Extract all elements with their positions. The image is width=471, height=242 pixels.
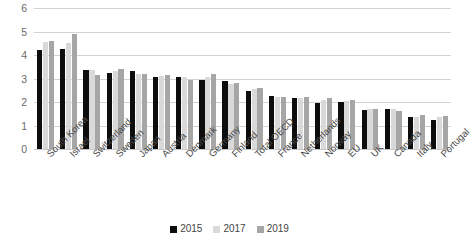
bar[interactable] — [165, 75, 170, 149]
x-axis: South KoreaIsraelSwitzerlandSwedenJapanA… — [34, 150, 451, 212]
bar[interactable] — [43, 42, 48, 149]
y-axis: 0123456 — [0, 8, 32, 149]
x-axis-category: Italy — [405, 150, 428, 212]
x-axis-category: Portugal — [428, 150, 451, 212]
x-axis-category: France — [266, 150, 289, 212]
x-axis-category: Israel — [57, 150, 80, 212]
y-axis-tick-label: 0 — [1, 144, 27, 154]
legend-item[interactable]: 2015 — [170, 224, 202, 234]
legend-label: 2017 — [223, 224, 245, 234]
legend-item[interactable]: 2019 — [257, 224, 289, 234]
bar-group — [382, 8, 405, 149]
x-axis-category: Germany — [196, 150, 219, 212]
y-axis-tick-label: 3 — [1, 74, 27, 84]
x-axis-category: Japan — [127, 150, 150, 212]
bar-group — [289, 8, 312, 149]
x-axis-category: EU — [335, 150, 358, 212]
x-axis-category: Total OECD — [243, 150, 266, 212]
bar[interactable] — [391, 109, 396, 149]
bar[interactable] — [188, 80, 193, 149]
bar[interactable] — [385, 109, 390, 149]
bar-groups — [34, 8, 451, 149]
y-axis-tick-label: 1 — [1, 121, 27, 131]
x-axis-category: South Korea — [34, 150, 57, 212]
x-axis-category: Finland — [219, 150, 242, 212]
bar[interactable] — [367, 109, 372, 149]
x-axis-category: Switzerland — [80, 150, 103, 212]
legend-swatch — [170, 226, 177, 233]
bar-group — [358, 8, 381, 149]
bar-group — [173, 8, 196, 149]
bar[interactable] — [37, 50, 42, 149]
x-axis-category: Canada — [382, 150, 405, 212]
bar[interactable] — [362, 110, 367, 149]
bar-group — [150, 8, 173, 149]
legend-swatch — [213, 226, 220, 233]
x-axis-category: Denmark — [173, 150, 196, 212]
x-axis-category: Austria — [150, 150, 173, 212]
bar[interactable] — [89, 70, 94, 149]
legend-label: 2019 — [267, 224, 289, 234]
y-axis-tick-label: 2 — [1, 97, 27, 107]
y-axis-tick-label: 6 — [1, 3, 27, 13]
y-axis-tick-label: 5 — [1, 27, 27, 37]
bar[interactable] — [95, 75, 100, 149]
y-axis-tick-label: 4 — [1, 50, 27, 60]
legend-label: 2015 — [180, 224, 202, 234]
bar[interactable] — [49, 41, 54, 149]
legend-item[interactable]: 2017 — [213, 224, 245, 234]
bar[interactable] — [437, 117, 442, 149]
x-axis-category: Norway — [312, 150, 335, 212]
x-axis-category: Sweden — [104, 150, 127, 212]
chart-legend: 201520172019 — [0, 221, 459, 237]
bar[interactable] — [234, 83, 239, 149]
bar-group — [428, 8, 451, 149]
bar-group — [335, 8, 358, 149]
x-axis-category: UK — [358, 150, 381, 212]
plot-area — [34, 8, 451, 149]
bar-group — [34, 8, 57, 149]
bar-group — [243, 8, 266, 149]
legend-swatch — [257, 226, 264, 233]
bar-group — [80, 8, 103, 149]
x-axis-category: Netherlands — [289, 150, 312, 212]
